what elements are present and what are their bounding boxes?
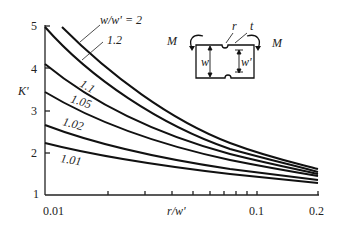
label-w-ratio-2: w/w' = 2 [100,13,142,27]
moment-left-label: M [166,34,178,48]
x-axis-title: r/w' [167,204,186,218]
x-tick-0.1: 0.1 [249,204,264,218]
net-width-label: w' [241,55,252,69]
thickness-label: t [250,19,254,33]
radius-label: r [232,19,237,33]
moment-right-label: M [271,36,283,50]
y-tick-1: 1 [33,187,39,201]
y-tick-3: 3 [31,104,37,118]
y-tick-2: 2 [31,146,37,160]
x-tick-0.01: 0.01 [43,204,64,218]
label-1.02: 1.02 [61,114,85,133]
chart: 5 4 3 2 1 0.01 0.1 0.2 r/w' K' w/w' = 2 … [0,0,340,227]
width-label: w [201,55,209,69]
y-tick-4: 4 [31,62,37,76]
label-1.01: 1.01 [59,151,82,168]
x-tick-0.2: 0.2 [309,204,324,218]
label-1.2: 1.2 [107,33,122,47]
y-axis-title: K' [17,84,29,98]
y-tick-5: 5 [31,19,37,33]
